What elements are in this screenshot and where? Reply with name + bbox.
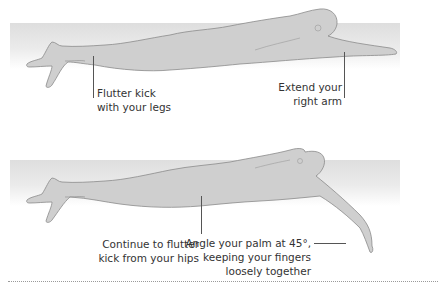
leader-line-hips bbox=[201, 196, 202, 234]
callout-palm-angle: Angle your palm at 45°, keeping your fin… bbox=[185, 236, 311, 278]
leader-line-palm bbox=[314, 243, 346, 244]
callout-continue-kick: Continue to flutter kick from your hips bbox=[98, 237, 199, 265]
dotted-divider bbox=[8, 281, 438, 282]
